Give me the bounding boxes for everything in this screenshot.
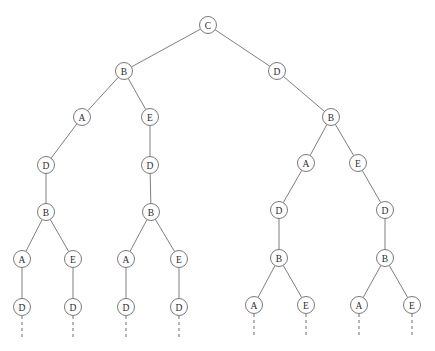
tree-edge	[310, 124, 327, 155]
tree-node-label: B	[276, 254, 282, 264]
tree-edge	[26, 220, 42, 252]
tree-edge	[130, 220, 147, 252]
tree-node[interactable]: E	[142, 109, 159, 126]
tree-node[interactable]: D	[118, 299, 135, 316]
tree-node-label: D	[19, 303, 26, 313]
tree-node[interactable]: D	[65, 299, 82, 316]
tree-node[interactable]: B	[38, 204, 55, 221]
tree-nodes-group: CBDAEBDDAEBBDDAEAEBBDDDDAEAE	[14, 17, 421, 316]
tree-node-label: A	[303, 159, 310, 169]
tree-node-label: B	[382, 254, 388, 264]
tree-node-label: D	[43, 161, 50, 171]
tree-node[interactable]: B	[323, 109, 340, 126]
tree-node-label: D	[176, 303, 183, 313]
tree-node[interactable]: E	[171, 251, 188, 268]
tree-node-label: C	[205, 21, 211, 31]
tree-edge	[131, 29, 200, 67]
tree-node[interactable]: D	[377, 202, 394, 219]
tree-node-label: B	[43, 208, 49, 218]
tree-node-label: D	[382, 206, 389, 216]
tree-node-label: D	[70, 303, 77, 313]
tree-node[interactable]: A	[74, 109, 91, 126]
tree-node-label: E	[303, 301, 309, 311]
tree-node-label: E	[147, 113, 153, 123]
tree-edge	[389, 265, 408, 297]
tree-node[interactable]: D	[14, 299, 31, 316]
tree-node-label: A	[79, 113, 86, 123]
tree-node-label: D	[276, 206, 283, 216]
tree-node[interactable]: D	[171, 299, 188, 316]
tree-node-label: A	[19, 255, 26, 265]
tree-node[interactable]: E	[404, 297, 421, 314]
tree-node[interactable]: B	[377, 250, 394, 267]
tree-node-label: D	[274, 67, 281, 77]
tree-continuation-stubs-group	[22, 314, 412, 340]
tree-node[interactable]: B	[116, 63, 133, 80]
tree-node[interactable]: D	[142, 157, 159, 174]
tree-node[interactable]: A	[298, 155, 315, 172]
tree-node-label: A	[251, 301, 258, 311]
tree-node-label: A	[123, 255, 130, 265]
tree-node[interactable]: B	[143, 204, 160, 221]
tree-node[interactable]: A	[351, 297, 368, 314]
tree-diagram-canvas: CBDAEBDDAEBBDDAEAEBBDDDDAEAE	[0, 0, 435, 351]
tree-node[interactable]: A	[118, 251, 135, 268]
tree-node[interactable]: E	[298, 297, 315, 314]
tree-edge	[283, 265, 302, 297]
tree-edge	[50, 219, 69, 251]
tree-node-label: E	[355, 159, 361, 169]
tree-diagram-svg: CBDAEBDDAEBBDDAEAEBBDDDDAEAE	[0, 0, 435, 351]
tree-node[interactable]: E	[350, 155, 367, 172]
tree-node[interactable]: B	[271, 250, 288, 267]
tree-edge	[128, 78, 146, 109]
tree-node-label: B	[148, 208, 154, 218]
tree-node-label: A	[356, 301, 363, 311]
tree-edge	[258, 266, 275, 298]
tree-node[interactable]: D	[38, 157, 55, 174]
tree-edge	[283, 77, 324, 112]
tree-edge	[155, 219, 174, 251]
tree-edge	[150, 174, 151, 204]
tree-node-label: D	[147, 161, 154, 171]
tree-edge	[283, 170, 302, 202]
tree-node-label: D	[123, 303, 130, 313]
tree-node[interactable]: E	[65, 251, 82, 268]
tree-edge	[363, 265, 381, 297]
tree-node[interactable]: C	[200, 17, 217, 34]
tree-node[interactable]: A	[14, 251, 31, 268]
tree-edge	[88, 77, 119, 110]
tree-edge	[215, 30, 270, 67]
tree-node-label: E	[409, 301, 415, 311]
tree-node[interactable]: A	[246, 297, 263, 314]
tree-edge	[335, 124, 353, 155]
tree-node-label: E	[70, 255, 76, 265]
tree-edge	[51, 124, 77, 158]
tree-node-label: E	[176, 255, 182, 265]
tree-node[interactable]: D	[271, 202, 288, 219]
tree-node[interactable]: D	[269, 63, 286, 80]
tree-node-label: B	[121, 67, 127, 77]
tree-edge	[362, 170, 381, 202]
tree-node-label: B	[328, 113, 334, 123]
